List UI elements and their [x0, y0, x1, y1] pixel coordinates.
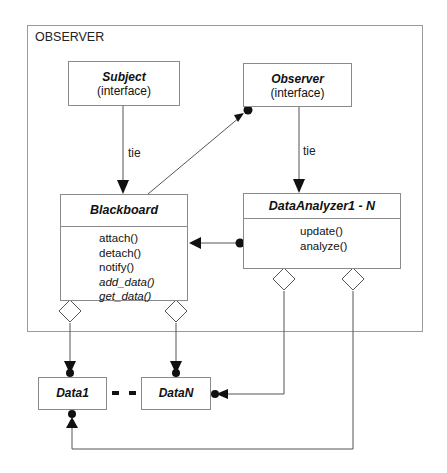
association-dot	[172, 369, 180, 377]
data-analyzer-operations: update() analyze()	[244, 219, 400, 253]
subject-interface-box[interactable]: Subject (interface)	[68, 61, 180, 106]
blackboard-title: Blackboard	[61, 195, 187, 227]
subject-title: Subject	[69, 70, 179, 84]
association-dot	[211, 390, 219, 398]
analyzer-to-dataN-line	[228, 291, 284, 394]
data1-box[interactable]: Data1	[38, 377, 107, 410]
operation-detach: detach()	[99, 246, 187, 261]
arrowhead	[117, 180, 129, 194]
analyzer-to-data1-line	[72, 291, 353, 449]
dataN-box[interactable]: DataN	[141, 377, 211, 410]
dataN-title: DataN	[159, 386, 194, 400]
blackboard-class-box[interactable]: Blackboard attach() detach() notify() ad…	[60, 194, 188, 301]
association-dot	[68, 410, 76, 418]
tie-label: tie	[303, 144, 316, 158]
operation-analyze: analyze()	[300, 239, 400, 254]
operation-update: update()	[300, 224, 400, 239]
observer-interface-box[interactable]: Observer (interface)	[243, 63, 352, 107]
association-dot	[66, 369, 74, 377]
observer-title: Observer	[244, 72, 351, 86]
blackboard-to-observer-line	[148, 117, 240, 194]
dash	[112, 391, 119, 395]
blackboard-operations: attach() detach() notify() add_data() ge…	[61, 227, 187, 304]
arrowhead	[293, 179, 305, 193]
arrowhead	[66, 417, 78, 428]
data1-title: Data1	[56, 386, 89, 400]
data-analyzer-class-box[interactable]: DataAnalyzer1 - N update() analyze()	[243, 193, 401, 269]
subject-stereotype: (interface)	[97, 84, 151, 98]
operation-add-data: add_data()	[99, 275, 187, 290]
operation-notify: notify()	[99, 260, 187, 275]
dash	[129, 391, 136, 395]
observer-stereotype: (interface)	[270, 86, 324, 100]
operation-attach: attach()	[99, 231, 187, 246]
data-analyzer-title: DataAnalyzer1 - N	[244, 194, 400, 219]
operation-get-data: get_data()	[99, 289, 187, 304]
aggregation-diamond	[342, 268, 364, 290]
aggregation-diamond	[273, 268, 295, 290]
arrowhead	[189, 237, 201, 249]
tie-label: tie	[128, 146, 141, 160]
